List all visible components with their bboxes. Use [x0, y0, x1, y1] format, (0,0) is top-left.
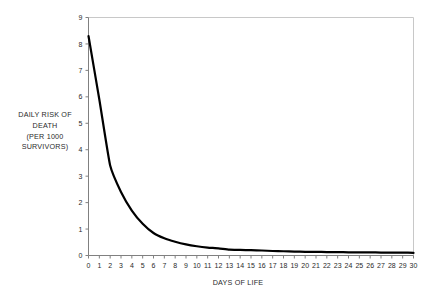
x-axis-tick-labels: 0123456789101112131415161718192021222324…: [87, 262, 418, 269]
plot-area-border: [89, 18, 414, 256]
x-tick-label: 18: [280, 262, 288, 269]
x-tick-label: 14: [236, 262, 244, 269]
y-axis-title: DAILY RISK OFDEATH(PER 1000SURVIVORS): [8, 110, 82, 153]
x-tick-label: 19: [290, 262, 298, 269]
x-tick-label: 26: [366, 262, 374, 269]
x-tick-label: 1: [97, 262, 101, 269]
y-tick-label: 1: [79, 226, 83, 233]
x-tick-label: 7: [162, 262, 166, 269]
x-tick-label: 29: [399, 262, 407, 269]
y-tick-label: 3: [79, 173, 83, 180]
y-axis-title-line: DAILY RISK OF: [8, 110, 82, 121]
x-tick-label: 22: [323, 262, 331, 269]
x-tick-label: 5: [141, 262, 145, 269]
chart-axes: [89, 18, 414, 256]
x-tick-label: 2: [108, 262, 112, 269]
y-tick-label: 0: [79, 252, 83, 259]
x-tick-label: 9: [184, 262, 188, 269]
x-tick-label: 27: [377, 262, 385, 269]
x-tick-label: 10: [193, 262, 201, 269]
x-tick-label: 8: [173, 262, 177, 269]
x-tick-label: 4: [130, 262, 134, 269]
x-tick-label: 23: [334, 262, 342, 269]
y-axis-title-line: (PER 1000: [8, 132, 82, 143]
x-tick-label: 15: [247, 262, 255, 269]
x-tick-label: 6: [152, 262, 156, 269]
x-tick-label: 13: [225, 262, 233, 269]
y-axis-title-line: DEATH: [8, 121, 82, 132]
x-tick-label: 24: [345, 262, 353, 269]
y-tick-label: 7: [79, 67, 83, 74]
y-tick-label: 9: [79, 14, 83, 21]
y-tick-label: 2: [79, 199, 83, 206]
x-tick-label: 3: [119, 262, 123, 269]
x-tick-label: 16: [258, 262, 266, 269]
chart-figure: 0123456789101112131415161718192021222324…: [0, 0, 433, 298]
x-tick-label: 12: [215, 262, 223, 269]
x-tick-label: 0: [87, 262, 91, 269]
x-tick-label: 30: [410, 262, 418, 269]
x-tick-label: 11: [204, 262, 211, 269]
x-tick-label: 17: [269, 262, 277, 269]
y-axis-title-line: SURVIVORS): [8, 142, 82, 153]
x-tick-label: 25: [355, 262, 363, 269]
x-tick-label: 28: [388, 262, 396, 269]
data-series-line: [89, 36, 414, 253]
y-tick-label: 8: [79, 41, 83, 48]
x-tick-label: 21: [312, 262, 320, 269]
x-axis-title: DAYS OF LIFE: [178, 278, 298, 287]
x-tick-label: 20: [301, 262, 309, 269]
y-tick-label: 6: [79, 93, 83, 100]
